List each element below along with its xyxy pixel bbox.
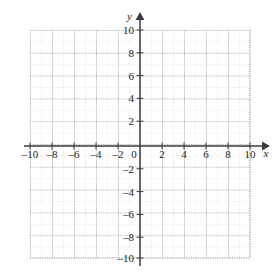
- y-label-4: 4: [129, 92, 135, 104]
- y-label--6: –6: [122, 208, 135, 220]
- x-label--8: –8: [46, 148, 59, 160]
- y-label-6: 6: [129, 70, 135, 82]
- y-label--4: –4: [122, 186, 135, 198]
- y-label-10: 10: [123, 24, 135, 36]
- x-label-2: 2: [159, 148, 165, 160]
- x-axis-label: x: [263, 147, 269, 159]
- x-label--4: –4: [90, 148, 103, 160]
- y-label-8: 8: [129, 47, 135, 59]
- y-label--10: –10: [117, 252, 135, 264]
- coordinate-plane-svg: –10 –8 –6 –4 –2 0 2 4 6 8 10 10 8 6 4 2 …: [0, 0, 276, 277]
- y-label-2: 2: [129, 115, 135, 127]
- x-label-8: 8: [225, 148, 231, 160]
- x-label--10: –10: [21, 148, 39, 160]
- x-label-10: 10: [245, 148, 257, 160]
- y-label--8: –8: [122, 231, 135, 243]
- coordinate-plane-figure: –10 –8 –6 –4 –2 0 2 4 6 8 10 10 8 6 4 2 …: [0, 0, 276, 277]
- x-label-4: 4: [181, 148, 187, 160]
- x-label--2: –2: [112, 148, 124, 160]
- x-label-6: 6: [203, 148, 209, 160]
- y-label--2: –2: [122, 163, 134, 175]
- origin-label: 0: [131, 148, 137, 160]
- x-label--6: –6: [68, 148, 81, 160]
- y-axis-label: y: [126, 10, 132, 22]
